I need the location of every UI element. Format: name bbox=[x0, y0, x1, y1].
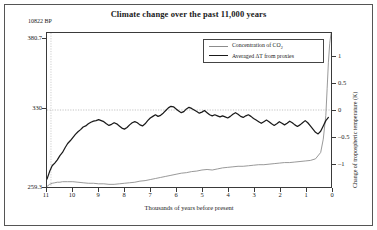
legend-label-delta-t: Averaged ΔT from proxies bbox=[232, 53, 294, 59]
x-axis-tick: 4 bbox=[220, 191, 236, 198]
x-axis-tick: 10 bbox=[64, 191, 80, 198]
y-axis-right-tick: 1 bbox=[338, 52, 341, 59]
legend-label-co2: Concentration of CO2 bbox=[232, 42, 283, 50]
x-axis-tickmark bbox=[72, 188, 73, 192]
figure-container: Climate change over the past 11,000 year… bbox=[0, 0, 377, 230]
x-axis-tickmark bbox=[254, 188, 255, 192]
x-axis-tick: 8 bbox=[116, 191, 132, 198]
x-axis-tickmark bbox=[46, 188, 47, 192]
x-axis-tick: 6 bbox=[168, 191, 184, 198]
y-axis-right-tick: –1 bbox=[338, 160, 345, 167]
x-axis-tickmark bbox=[228, 188, 229, 192]
legend-item-delta-t: Averaged ΔT from proxies bbox=[207, 51, 320, 60]
x-axis-tick: 2 bbox=[272, 191, 288, 198]
x-axis-tick: 7 bbox=[142, 191, 158, 198]
y-axis-right-tick: 0 bbox=[338, 106, 341, 113]
x-axis-tick: 3 bbox=[246, 191, 262, 198]
legend-swatch-co2 bbox=[209, 46, 228, 47]
y-axis-right-tickmark bbox=[332, 56, 336, 57]
x-axis-tick: 1 bbox=[298, 191, 314, 198]
y-axis-right-tickmark bbox=[332, 110, 336, 111]
x-axis-tickmark bbox=[332, 188, 333, 192]
legend-item-co2: Concentration of CO2 bbox=[207, 42, 320, 51]
y-axis-right-tickmark bbox=[332, 164, 336, 165]
x-axis-tick: 5 bbox=[194, 191, 210, 198]
x-axis-tick: 0 bbox=[324, 191, 340, 198]
x-axis-label: Thousands of years before present bbox=[46, 204, 332, 211]
y-axis-right-tick: –0.5 bbox=[338, 133, 349, 140]
x-axis-tickmark bbox=[202, 188, 203, 192]
x-axis-tickmark bbox=[280, 188, 281, 192]
y-axis-right-tickmark bbox=[332, 137, 336, 138]
y-axis-left-tick: 380.7 bbox=[12, 34, 42, 41]
x-axis-tickmark bbox=[306, 188, 307, 192]
x-axis-tickmark bbox=[124, 188, 125, 192]
x-axis-tick: 9 bbox=[90, 191, 106, 198]
x-axis-tick: 11 bbox=[38, 191, 54, 198]
y-axis-left-tick: 259.3 bbox=[12, 183, 42, 190]
legend-swatch-delta-t bbox=[209, 55, 228, 56]
x-axis-tickmark bbox=[176, 188, 177, 192]
series-line-delta-t bbox=[47, 106, 328, 179]
y-axis-right-label: Change of tropospheric temperature (K) bbox=[352, 28, 358, 188]
x-axis-tickmark bbox=[98, 188, 99, 192]
y-axis-right-tick: 0.5 bbox=[338, 79, 346, 86]
x-axis-tickmark bbox=[150, 188, 151, 192]
bp-marker-label: 10822 BP bbox=[28, 18, 52, 24]
chart-legend: Concentration of CO2 Averaged ΔT from pr… bbox=[203, 39, 324, 63]
chart-title: Climate change over the past 11,000 year… bbox=[0, 9, 377, 19]
y-axis-right-tickmark bbox=[332, 83, 336, 84]
y-axis-left-tick: 330 bbox=[12, 104, 42, 111]
